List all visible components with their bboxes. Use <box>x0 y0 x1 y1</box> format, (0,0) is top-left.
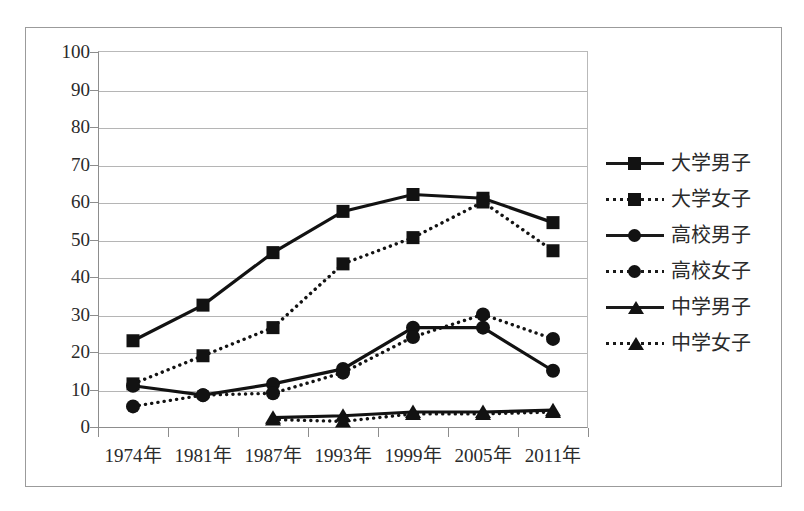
legend-item-6[interactable]: 中学女子 <box>606 325 751 361</box>
circle-marker <box>126 399 140 413</box>
legend-item-5[interactable]: 中学男子 <box>606 289 751 325</box>
square-marker <box>197 349 210 362</box>
circle-glyph <box>628 229 641 242</box>
series-line <box>133 328 553 396</box>
legend-item-label: 中学男子 <box>671 296 751 318</box>
chart-figure: 1009080706050403020100 1974年1981年1987年19… <box>0 0 804 511</box>
circle-marker <box>476 308 490 322</box>
square-marker <box>547 216 560 229</box>
circle-marker <box>196 388 210 402</box>
circle-marker <box>546 364 560 378</box>
legend-key <box>606 153 664 173</box>
square-marker <box>407 231 420 244</box>
circle-marker <box>126 379 140 393</box>
triangle-glyph <box>628 337 644 350</box>
legend-square-icon <box>628 157 641 170</box>
chart-legend: 大学男子大学女子高校男子高校女子中学男子中学女子 <box>606 145 776 367</box>
legend-triangle-icon <box>628 301 644 314</box>
legend-square-icon <box>628 193 641 206</box>
legend-item-4[interactable]: 高校女子 <box>606 253 751 289</box>
square-marker <box>547 244 560 257</box>
legend-circle-icon <box>628 229 641 242</box>
circle-marker <box>546 332 560 346</box>
legend-item-2[interactable]: 大学女子 <box>606 181 751 217</box>
circle-marker <box>336 366 350 380</box>
legend-item-1[interactable]: 大学男子 <box>606 145 751 181</box>
square-marker <box>267 246 280 259</box>
circle-glyph <box>628 265 641 278</box>
square-glyph <box>628 157 641 170</box>
circle-marker <box>476 321 490 335</box>
square-marker <box>337 205 350 218</box>
legend-circle-icon <box>628 265 641 278</box>
triangle-glyph <box>628 301 644 314</box>
legend-triangle-icon <box>628 337 644 350</box>
circle-marker <box>266 386 280 400</box>
square-marker <box>477 196 490 209</box>
legend-item-3[interactable]: 高校男子 <box>606 217 751 253</box>
square-glyph <box>628 193 641 206</box>
legend-item-label: 中学女子 <box>671 332 751 354</box>
square-marker <box>407 188 420 201</box>
legend-item-label: 高校男子 <box>671 224 751 246</box>
square-marker <box>197 299 210 312</box>
legend-key <box>606 261 664 281</box>
square-marker <box>267 321 280 334</box>
circle-marker <box>406 330 420 344</box>
square-marker <box>337 257 350 270</box>
legend-key <box>606 225 664 245</box>
series-line <box>133 202 553 384</box>
series-2 <box>127 196 560 391</box>
legend-key <box>606 333 664 353</box>
legend-item-label: 高校女子 <box>671 260 751 282</box>
legend-key <box>606 189 664 209</box>
legend-item-label: 大学女子 <box>671 188 751 210</box>
legend-key <box>606 297 664 317</box>
legend-item-label: 大学男子 <box>671 152 751 174</box>
square-marker <box>127 334 140 347</box>
